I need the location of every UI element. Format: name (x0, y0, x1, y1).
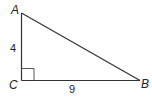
right-triangle-diagram: A C B 4 9 (0, 0, 152, 97)
vertex-label-c: C (9, 78, 18, 92)
right-angle-marker (22, 69, 35, 81)
side-label-ac: 4 (10, 42, 16, 54)
vertex-label-b: B (141, 77, 149, 91)
vertex-label-a: A (10, 3, 19, 17)
side-label-cb: 9 (69, 83, 75, 95)
side-ab-hypotenuse (22, 13, 141, 81)
